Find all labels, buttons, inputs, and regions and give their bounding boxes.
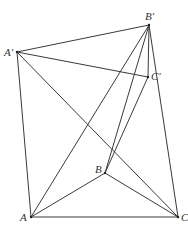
segment-bp-c: [149, 25, 178, 217]
diagram-segments: [17, 25, 178, 217]
segment-bp-a: [31, 25, 149, 217]
segment-ap-a: [17, 52, 31, 217]
segment-ap-bp: [17, 25, 149, 52]
geometry-diagram: ABCA′B′C′: [0, 0, 188, 237]
label-ap: A′: [3, 46, 14, 58]
point-ap: [16, 51, 18, 53]
point-c: [177, 216, 179, 218]
diagram-points: [16, 24, 179, 218]
label-a: A: [19, 211, 27, 223]
point-cp: [147, 76, 149, 78]
segment-ap-cp: [17, 52, 148, 77]
segment-cp-b: [105, 77, 148, 173]
point-bp: [148, 24, 150, 26]
diagram-labels: ABCA′B′C′: [3, 10, 188, 223]
segment-a-b: [31, 173, 105, 217]
segment-bp-cp: [148, 25, 149, 77]
label-cp: C′: [151, 70, 161, 82]
point-b: [104, 172, 106, 174]
label-c: C: [181, 211, 188, 223]
label-bp: B′: [145, 10, 155, 22]
label-b: B: [95, 163, 102, 175]
point-a: [30, 216, 32, 218]
segment-bp-b: [105, 25, 149, 173]
